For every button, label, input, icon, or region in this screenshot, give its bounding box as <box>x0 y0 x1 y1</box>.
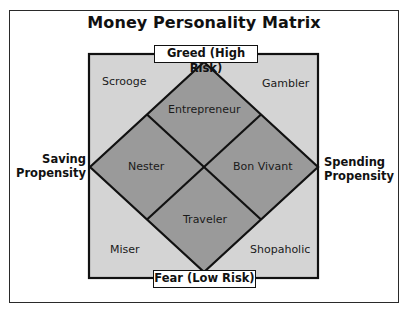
corner-label-gambler: Gambler <box>262 77 309 90</box>
saving-line-1: Saving <box>16 152 86 166</box>
saving-line-2: Propensity <box>16 166 86 180</box>
axis-label-spending: Spending Propensity <box>324 155 394 183</box>
corner-label-miser: Miser <box>110 243 140 256</box>
axis-label-saving: Saving Propensity <box>16 152 86 180</box>
cell-label-nester: Nester <box>128 160 164 173</box>
cell-label-traveler: Traveler <box>183 213 227 226</box>
spending-line-2: Propensity <box>324 169 394 183</box>
corner-label-scrooge: Scrooge <box>102 75 147 88</box>
corner-label-shopaholic: Shopaholic <box>250 243 310 256</box>
cell-label-entrepreneur: Entrepreneur <box>168 103 241 116</box>
spending-line-1: Spending <box>324 155 394 169</box>
cell-label-bon-vivant: Bon Vivant <box>233 160 293 173</box>
axis-label-greed: Greed (High Risk) <box>154 45 258 63</box>
axis-label-fear: Fear (Low Risk) <box>153 270 256 288</box>
